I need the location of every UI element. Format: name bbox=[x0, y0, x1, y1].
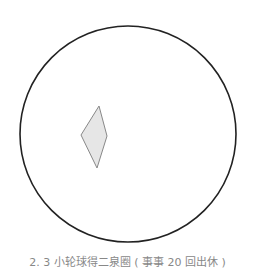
figure-caption: 2. 3 小轮球得二泉圈 ( 事事 20 回出休 ) bbox=[0, 256, 255, 270]
outer-circle bbox=[20, 26, 236, 242]
diamond-shape bbox=[81, 106, 107, 168]
